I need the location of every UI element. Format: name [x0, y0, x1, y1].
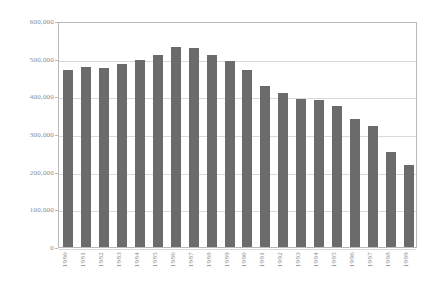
bar: [332, 106, 342, 247]
y-axis-tick-label: 100,000: [30, 206, 54, 214]
y-axis-tick-mark: [55, 248, 58, 249]
y-axis: 600,000500,000400,000300,000200,000100,0…: [0, 0, 58, 270]
bar: [207, 55, 217, 247]
x-axis-tick-label: 1992: [276, 252, 288, 267]
x-axis: 1980198119821983198419851986198719881989…: [58, 250, 417, 297]
x-axis-tick-label: 1990: [240, 252, 252, 267]
bar-chart: 600,000500,000400,000300,000200,000100,0…: [0, 0, 442, 297]
bar: [350, 119, 360, 247]
y-axis-tick-label: 600,000: [30, 18, 54, 26]
bar: [296, 99, 306, 247]
y-axis-tick-label: 500,000: [30, 56, 54, 64]
bar: [386, 152, 396, 247]
bar: [171, 47, 181, 247]
x-axis-tick-label: 1997: [366, 252, 378, 267]
x-axis-tick-label: 1986: [169, 252, 181, 267]
bar: [368, 126, 378, 247]
x-axis-tick-label: 1987: [187, 252, 199, 267]
bar: [189, 48, 199, 247]
y-axis-tick-label: 200,000: [30, 169, 54, 177]
x-axis-tick-label: 1999: [402, 252, 414, 267]
bar: [314, 100, 324, 247]
y-axis-tick-label: 300,000: [30, 131, 54, 139]
bar: [260, 86, 270, 247]
bars-group: [59, 23, 416, 247]
x-axis-tick-label: 1983: [115, 252, 127, 267]
bar: [225, 61, 235, 247]
plot-area: [58, 22, 417, 248]
bar: [117, 64, 127, 247]
bar: [81, 67, 91, 247]
x-axis-tick-label: 1982: [97, 252, 109, 267]
bar: [242, 70, 252, 247]
x-axis-tick-label: 1996: [348, 252, 360, 267]
x-axis-tick-label: 1984: [133, 252, 145, 267]
x-axis-tick-label: 1989: [223, 252, 235, 267]
bar: [135, 60, 145, 247]
x-axis-tick-label: 1985: [151, 252, 163, 267]
x-axis-tick-label: 1998: [384, 252, 396, 267]
x-axis-tick-label: 1993: [294, 252, 306, 267]
bar: [153, 55, 163, 247]
y-axis-tick-label: 0: [50, 244, 54, 252]
x-axis-tick-label: 1981: [79, 252, 91, 267]
x-axis-tick-label: 1988: [205, 252, 217, 267]
y-axis-tick-label: 400,000: [30, 93, 54, 101]
bar: [404, 165, 414, 247]
x-axis-tick-label: 1991: [258, 252, 270, 267]
bar: [278, 93, 288, 247]
x-axis-tick-label: 1995: [330, 252, 342, 267]
bar: [63, 70, 73, 247]
bar: [99, 68, 109, 247]
x-axis-tick-label: 1994: [312, 252, 324, 267]
x-axis-tick-label: 1980: [61, 252, 73, 267]
